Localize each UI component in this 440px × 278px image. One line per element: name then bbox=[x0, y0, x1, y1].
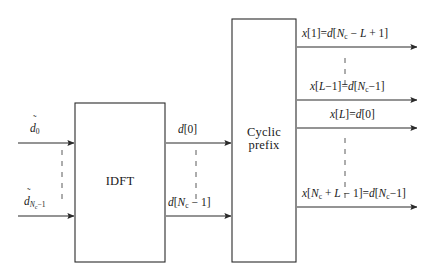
input-top-accented-symbol: d̃ bbox=[30, 122, 36, 134]
out3-rhs-index: [0] bbox=[361, 108, 374, 120]
input-top-subscript: 0 bbox=[36, 127, 40, 136]
input-bottom-accented-symbol: d̃ bbox=[24, 195, 30, 207]
output-label-1: x[1]=d[Nc − L + 1] bbox=[302, 27, 388, 41]
input-label-top: d̃0 bbox=[30, 122, 40, 136]
idft-block-label: IDFT bbox=[75, 175, 165, 188]
intermediate-top-index: [0] bbox=[184, 123, 197, 135]
out1-rhs-var: d bbox=[327, 27, 333, 39]
out2-rhs-index: [Nc−1] bbox=[354, 80, 385, 92]
cyclic-prefix-block-label: Cyclic prefix bbox=[232, 126, 296, 152]
input-top-base: d bbox=[30, 122, 36, 134]
out1-lhs-index: [1] bbox=[307, 27, 320, 39]
output-label-2: x[L−1]=d[Nc−1] bbox=[310, 80, 385, 94]
out3-lhs-index: [L] bbox=[335, 108, 349, 120]
input-bottom-base: d bbox=[24, 195, 30, 207]
output-label-4: x[Nc + L − 1]=d[Nc−1] bbox=[302, 187, 406, 201]
diagram-canvas bbox=[0, 0, 440, 278]
block-diagram-figure: IDFT Cyclic prefix d̃0 d̃Nc−1 d[0] d[Nc … bbox=[0, 0, 440, 278]
out2-lhs-index: [L−1] bbox=[315, 80, 341, 92]
cyclic-prefix-label-line2: prefix bbox=[232, 139, 296, 152]
output-label-3: x[L]=d[0] bbox=[330, 108, 375, 120]
out4-rhs-var: d bbox=[369, 187, 375, 199]
intermediate-bottom-index: [Nc − 1] bbox=[174, 196, 211, 208]
input-label-bottom: d̃Nc−1 bbox=[24, 195, 46, 210]
input-bottom-subscript: Nc−1 bbox=[30, 200, 46, 209]
out2-rhs-var: d bbox=[348, 80, 354, 92]
out1-rhs-index: [Nc − L + 1] bbox=[333, 27, 388, 39]
out4-lhs-index: [Nc + L − 1] bbox=[307, 187, 362, 199]
intermediate-bottom-var: d bbox=[168, 196, 174, 208]
out4-rhs-index: [Nc−1] bbox=[375, 187, 406, 199]
intermediate-label-top: d[0] bbox=[178, 123, 197, 135]
intermediate-label-bottom: d[Nc − 1] bbox=[168, 196, 210, 210]
